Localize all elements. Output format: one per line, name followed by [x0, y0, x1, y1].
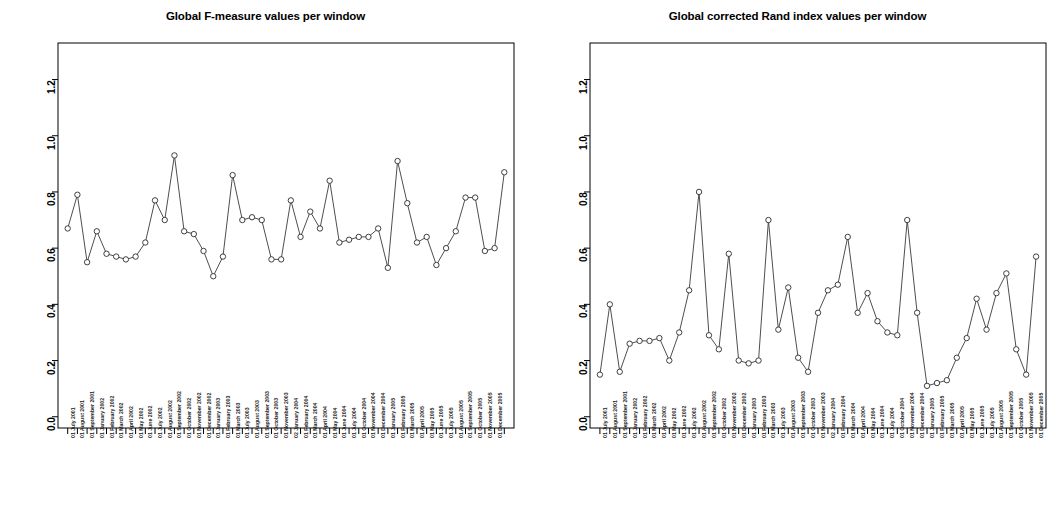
data-point: [249, 215, 254, 220]
data-point: [686, 288, 691, 293]
data-point: [716, 347, 721, 352]
data-point: [1033, 254, 1038, 259]
data-point: [94, 229, 99, 234]
data-point: [994, 290, 999, 295]
data-point: [414, 240, 419, 245]
data-point: [984, 327, 989, 332]
data-point: [786, 285, 791, 290]
data-point: [220, 254, 225, 259]
y-tick-label: 0.2: [578, 361, 589, 375]
data-point: [181, 229, 186, 234]
data-point: [191, 231, 196, 236]
data-point: [346, 237, 351, 242]
data-point: [308, 209, 313, 214]
data-point: [805, 369, 810, 374]
data-point: [706, 333, 711, 338]
y-tick-label: 0.0: [578, 417, 589, 431]
data-point: [865, 290, 870, 295]
data-point: [482, 248, 487, 253]
y-tick-label: 1.0: [578, 136, 589, 150]
data-point: [298, 234, 303, 239]
data-point: [1023, 372, 1028, 377]
data-point: [885, 330, 890, 335]
plot-frame: [58, 43, 514, 428]
data-point: [133, 254, 138, 259]
data-point: [152, 198, 157, 203]
data-point: [736, 358, 741, 363]
y-tick-label: 0.6: [578, 248, 589, 262]
data-point: [696, 189, 701, 194]
data-point: [825, 288, 830, 293]
data-point: [924, 383, 929, 388]
data-point: [385, 265, 390, 270]
data-point: [240, 217, 245, 222]
y-tick-label: 0.2: [46, 361, 57, 375]
plot-rand-index: [532, 0, 1063, 528]
data-point: [726, 251, 731, 256]
data-point: [964, 335, 969, 340]
panel-f-measure: Global F-measure values per window 01 Ju…: [0, 0, 531, 528]
data-point: [954, 355, 959, 360]
data-point: [211, 274, 216, 279]
data-point: [1014, 347, 1019, 352]
data-point: [337, 240, 342, 245]
chart-page: Global F-measure values per window 01 Ju…: [0, 0, 1063, 528]
data-point: [143, 240, 148, 245]
y-tick-label: 0.4: [46, 304, 57, 318]
data-point: [766, 217, 771, 222]
data-point: [472, 195, 477, 200]
y-tick-label: 1.2: [46, 80, 57, 94]
data-point: [104, 251, 109, 256]
data-point: [443, 245, 448, 250]
data-point: [944, 378, 949, 383]
plot-f-measure: [0, 0, 531, 528]
data-point: [201, 248, 206, 253]
data-point: [172, 153, 177, 158]
data-point: [875, 319, 880, 324]
data-point: [434, 262, 439, 267]
data-point: [269, 257, 274, 262]
data-point: [453, 229, 458, 234]
y-tick-label: 1.2: [578, 80, 589, 94]
data-point: [835, 282, 840, 287]
data-point: [259, 217, 264, 222]
data-point: [278, 257, 283, 262]
data-point: [607, 302, 612, 307]
data-point: [162, 217, 167, 222]
y-tick-label: 0.0: [46, 417, 57, 431]
data-point: [905, 217, 910, 222]
plot-frame: [590, 43, 1046, 428]
y-tick-label: 1.0: [46, 136, 57, 150]
data-point: [492, 245, 497, 250]
data-point: [1004, 271, 1009, 276]
data-point: [395, 158, 400, 163]
panel-rand-index: Global corrected Rand index values per w…: [532, 0, 1063, 528]
data-point: [84, 260, 89, 265]
data-point: [855, 310, 860, 315]
data-point: [974, 296, 979, 301]
data-point: [677, 330, 682, 335]
data-point: [667, 358, 672, 363]
data-point: [597, 372, 602, 377]
data-point: [627, 341, 632, 346]
data-point: [637, 338, 642, 343]
data-point: [65, 226, 70, 231]
data-point: [327, 178, 332, 183]
data-point: [756, 358, 761, 363]
data-point: [845, 234, 850, 239]
data-point: [375, 226, 380, 231]
y-tick-label: 0.8: [578, 192, 589, 206]
data-point: [776, 327, 781, 332]
data-point: [405, 200, 410, 205]
y-tick-label: 0.8: [46, 192, 57, 206]
data-point: [463, 195, 468, 200]
data-point: [815, 310, 820, 315]
data-point: [502, 170, 507, 175]
data-point: [914, 310, 919, 315]
data-point: [657, 335, 662, 340]
data-point: [617, 369, 622, 374]
data-point: [795, 355, 800, 360]
data-point: [895, 333, 900, 338]
data-line: [600, 192, 1036, 386]
data-point: [114, 254, 119, 259]
